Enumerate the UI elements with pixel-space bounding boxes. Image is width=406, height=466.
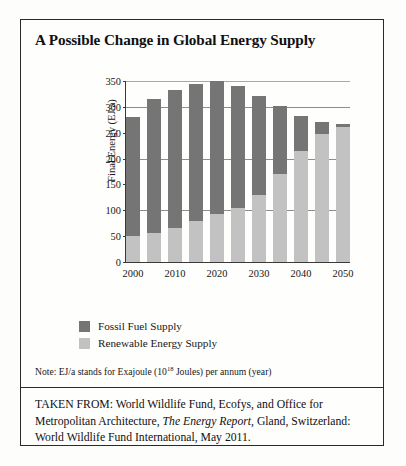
legend-item: Renewable Energy Supply	[79, 337, 339, 349]
legend-label: Fossil Fuel Supply	[98, 320, 182, 332]
bar-2015	[189, 81, 203, 262]
y-tick-label: 50	[111, 231, 121, 242]
bar-segment-renewable	[273, 174, 287, 262]
figure-container: A Possible Change in Global Energy Suppl…	[20, 19, 384, 446]
bar-segment-renewable	[294, 151, 308, 262]
bar-segment-renewable	[147, 233, 161, 262]
source-line-1: TAKEN FROM: World Wildlife Fund, Ecofys,…	[35, 398, 323, 411]
source-line-2-part-b: , Gland, Switzerland:	[251, 415, 350, 428]
y-tick-label: 100	[105, 205, 121, 216]
y-tick-mark	[123, 262, 127, 263]
bar-segment-fossil	[126, 117, 140, 236]
bar-segment-fossil	[294, 116, 308, 151]
page-title: A Possible Change in Global Energy Suppl…	[35, 31, 371, 49]
legend: Fossil Fuel SupplyRenewable Energy Suppl…	[79, 320, 339, 354]
bar-segment-renewable	[189, 221, 203, 262]
y-tick-label: 0	[116, 257, 121, 268]
bar-segment-fossil	[147, 99, 161, 232]
bar-segment-fossil	[252, 96, 266, 195]
bar-group	[126, 81, 350, 262]
bar-segment-fossil	[273, 106, 287, 174]
bar-segment-renewable	[168, 228, 182, 262]
bar-segment-fossil	[168, 90, 182, 228]
bar-2040	[294, 81, 308, 262]
bar-2050	[336, 81, 350, 262]
divider	[21, 387, 383, 388]
bar-2020	[210, 81, 224, 262]
bar-2035	[273, 81, 287, 262]
bar-segment-renewable	[336, 127, 350, 262]
note-suffix: Joules) per annum (year)	[173, 366, 271, 377]
legend-item: Fossil Fuel Supply	[79, 320, 339, 332]
plot-area: 050100150200250300350 200020102020203020…	[125, 81, 350, 263]
legend-swatch-icon	[79, 321, 90, 332]
bar-2030	[252, 81, 266, 262]
x-tick-label: 2010	[165, 268, 186, 279]
note-prefix: Note: EJ/a stands for Exajoule (10	[35, 366, 167, 377]
bar-segment-fossil	[231, 86, 245, 208]
bar-segment-renewable	[252, 195, 266, 262]
bar-2005	[147, 81, 161, 262]
bar-segment-renewable	[210, 214, 224, 262]
x-tick-label: 2020	[207, 268, 228, 279]
y-tick-label: 250	[105, 127, 121, 138]
source-line-2-part-a: Metropolitan Architecture,	[35, 415, 163, 428]
x-tick-label: 2000	[123, 268, 144, 279]
legend-swatch-icon	[79, 338, 90, 349]
source-publication-title: The Energy Report	[163, 415, 252, 428]
bar-segment-fossil	[315, 122, 329, 133]
chart: Final Energy (EJ/a) 05010015020025030035…	[67, 77, 357, 297]
y-tick-label: 150	[105, 179, 121, 190]
bar-2010	[168, 81, 182, 262]
figure-note: Note: EJ/a stands for Exajoule (1018 Jou…	[35, 365, 371, 377]
x-tick-label: 2030	[249, 268, 270, 279]
bar-segment-renewable	[315, 134, 329, 262]
bar-2045	[315, 81, 329, 262]
bar-segment-renewable	[231, 208, 245, 262]
y-tick-label: 200	[105, 153, 121, 164]
x-tick-label: 2050	[333, 268, 354, 279]
source-attribution: TAKEN FROM: World Wildlife Fund, Ecofys,…	[35, 397, 375, 447]
legend-label: Renewable Energy Supply	[98, 337, 217, 349]
y-tick-label: 300	[105, 101, 121, 112]
bar-2000	[126, 81, 140, 262]
source-line-3: World Wildlife Fund International, May 2…	[35, 431, 251, 444]
x-tick-label: 2040	[291, 268, 312, 279]
y-tick-label: 350	[105, 76, 121, 87]
figure-page: A Possible Change in Global Energy Suppl…	[0, 0, 406, 466]
bar-segment-renewable	[126, 236, 140, 262]
bar-segment-fossil	[210, 81, 224, 214]
bar-2025	[231, 81, 245, 262]
bar-segment-fossil	[189, 84, 203, 221]
